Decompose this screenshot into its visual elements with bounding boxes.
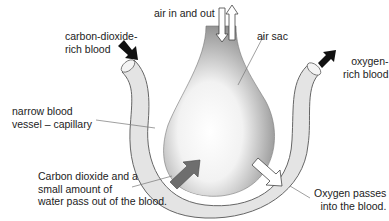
air-in-out-label: air in and out [154,7,215,20]
co2-rich-blood-label: carbon-dioxide- rich blood [65,30,137,55]
capillary-label: narrow blood vessel – capillary [12,105,92,130]
o2-rich-blood-label: oxygen- rich blood [343,55,389,80]
o2-in-label: Oxygen passes into the blood. [314,187,386,212]
o2-blood-out-arrow-icon [318,50,336,68]
co2-out-label: Carbon dioxide and a small amount of wat… [38,170,167,208]
air-sac-label: air sac [257,30,288,43]
